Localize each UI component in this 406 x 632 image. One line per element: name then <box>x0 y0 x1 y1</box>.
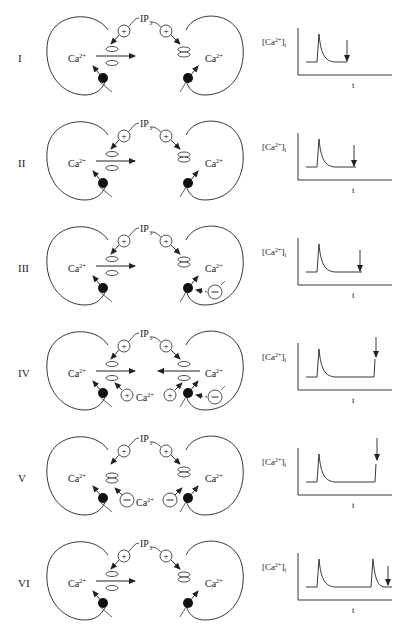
scenario-row-II: IIIP3Ca2+Ca2+[Ca2+]it <box>18 118 392 200</box>
svg-text:Ca2+: Ca2+ <box>68 472 86 484</box>
svg-text:Ca2+: Ca2+ <box>205 52 223 64</box>
svg-text:[Ca2+]i: [Ca2+]i <box>262 562 286 573</box>
svg-text:[Ca2+]i: [Ca2+]i <box>262 247 286 258</box>
scenario-row-VI: VIIP3Ca2+Ca2+[Ca2+]it <box>18 538 392 620</box>
svg-text:Ca2+: Ca2+ <box>68 52 86 64</box>
svg-text:Ca2+: Ca2+ <box>136 391 154 403</box>
svg-text:Ca2+: Ca2+ <box>136 496 154 508</box>
svg-text:[Ca2+]i: [Ca2+]i <box>262 457 286 468</box>
svg-text:t: t <box>352 185 355 195</box>
svg-text:t: t <box>352 80 355 90</box>
ca-wave-diagram: + IIP3Ca2+Ca2+[Ca2+]itIIIP3Ca2+Ca2+[Ca2+… <box>0 0 406 632</box>
svg-text:I: I <box>18 52 22 64</box>
svg-text:IP3: IP3 <box>140 223 152 236</box>
svg-text:[Ca2+]i: [Ca2+]i <box>262 352 286 363</box>
svg-text:Ca2+: Ca2+ <box>205 157 223 169</box>
svg-text:Ca2+: Ca2+ <box>205 262 223 274</box>
svg-text:IP3: IP3 <box>140 118 152 131</box>
svg-text:Ca2+: Ca2+ <box>68 577 86 589</box>
svg-text:IV: IV <box>18 367 30 379</box>
svg-text:IP3: IP3 <box>140 13 152 26</box>
svg-text:VI: VI <box>18 577 30 589</box>
scenario-row-III: IIIIP3Ca2+Ca2+[Ca2+]it <box>18 223 392 305</box>
svg-text:IP3: IP3 <box>140 433 152 446</box>
svg-text:Ca2+: Ca2+ <box>205 367 223 379</box>
svg-text:Ca2+: Ca2+ <box>205 472 223 484</box>
svg-text:II: II <box>18 157 26 169</box>
svg-text:t: t <box>352 290 355 300</box>
svg-text:IP3: IP3 <box>140 328 152 341</box>
svg-text:t: t <box>352 500 355 510</box>
svg-text:Ca2+: Ca2+ <box>68 262 86 274</box>
scenario-row-I: IIP3Ca2+Ca2+[Ca2+]it <box>18 13 392 95</box>
svg-text:Ca2+: Ca2+ <box>68 157 86 169</box>
scenario-row-IV: IVIP3Ca2+Ca2+Ca2+[Ca2+]it <box>18 328 392 410</box>
svg-text:Ca2+: Ca2+ <box>205 577 223 589</box>
svg-text:IP3: IP3 <box>140 538 152 551</box>
svg-text:t: t <box>352 395 355 405</box>
svg-text:Ca2+: Ca2+ <box>68 367 86 379</box>
svg-text:III: III <box>18 262 29 274</box>
svg-text:t: t <box>352 605 355 615</box>
svg-text:[Ca2+]i: [Ca2+]i <box>262 142 286 153</box>
scenario-row-V: VIP3Ca2+Ca2+Ca2+[Ca2+]it <box>18 433 392 515</box>
svg-text:V: V <box>18 472 26 484</box>
svg-text:[Ca2+]i: [Ca2+]i <box>262 37 286 48</box>
